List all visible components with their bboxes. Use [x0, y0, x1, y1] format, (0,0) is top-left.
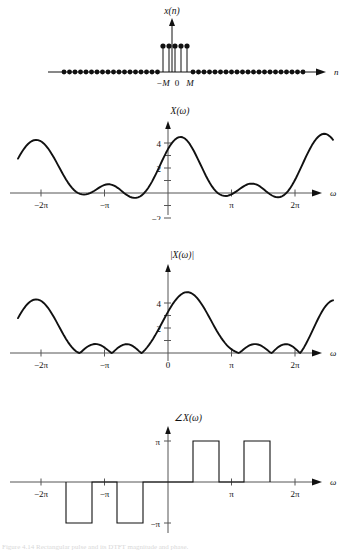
spectrum-magnitude-plot: |X(ω)| ω 4 2 −2π [0, 245, 351, 375]
spectrum-real-title: X(ω) [170, 106, 190, 117]
panel-sequence: x(n) n [0, 0, 351, 95]
spectrum-magnitude-xtick-pi: π [229, 360, 234, 370]
spectrum-real-xtick-pi: π [229, 200, 234, 210]
spectrum-magnitude-xtick-zero: 0 [166, 360, 171, 370]
panel-spectrum-phase: ∠X(ω) ω π −π −2π −π π [0, 405, 351, 545]
sequence-plot: x(n) n [0, 0, 351, 95]
spectrum-real-xtick-minus2pi: −2π [34, 200, 49, 210]
spectrum-magnitude-xtick-minuspi: −π [100, 360, 110, 370]
spectrum-phase-ytick-minuspi: −π [150, 519, 160, 529]
spectrum-phase-xtick-minuspi: −π [100, 489, 110, 499]
spectrum-phase-y-arrowhead [165, 426, 171, 434]
spectrum-magnitude-title: |X(ω)| [170, 250, 194, 261]
spectrum-magnitude-xtick-minus2pi: −2π [34, 360, 49, 370]
sequence-x-axis-label: n [334, 67, 339, 77]
spectrum-phase-plot: ∠X(ω) ω π −π −2π −π π [0, 405, 351, 545]
sequence-zero-samples-right [191, 70, 306, 75]
spectrum-phase-xtick-pi: π [229, 489, 234, 499]
dtft-figure: x(n) n [0, 0, 351, 555]
sequence-x-arrowhead [316, 69, 326, 76]
spectrum-real-y-arrowhead [165, 121, 171, 129]
spectrum-magnitude-x-axis-label: ω [330, 348, 336, 358]
spectrum-real-curve [18, 134, 333, 198]
sequence-xtick-m: M [185, 78, 194, 88]
spectrum-magnitude-y-arrowhead [165, 264, 171, 272]
spectrum-real-x-arrowhead [312, 190, 322, 197]
figure-caption: Figure 4.14 Rectangular pulse and its DT… [2, 543, 351, 551]
panel-spectrum-real: X(ω) ω 4 2 −2 [0, 100, 351, 220]
spectrum-real-ytick-minus2: −2 [151, 214, 161, 221]
spectrum-magnitude-curve [18, 292, 333, 353]
spectrum-phase-xtick-2pi: 2π [290, 489, 300, 499]
spectrum-magnitude-ytick-4: 4 [157, 299, 162, 309]
spectrum-phase-title: ∠X(ω) [174, 413, 202, 424]
spectrum-real-x-axis-label: ω [330, 188, 336, 198]
spectrum-phase-x-axis-label: ω [330, 477, 336, 487]
spectrum-real-xtick-minuspi: −π [100, 200, 110, 210]
spectrum-magnitude-x-arrowhead [312, 350, 322, 357]
spectrum-real-plot: X(ω) ω 4 2 −2 [0, 100, 351, 220]
spectrum-real-xtick-2pi: 2π [290, 200, 300, 210]
spectrum-phase-x-arrowhead [312, 479, 322, 486]
sequence-xtick-zero: 0 [175, 78, 180, 88]
sequence-title: x(n) [163, 6, 179, 17]
sequence-pulse-samples [160, 43, 189, 72]
spectrum-phase-xtick-minus2pi: −2π [34, 489, 49, 499]
sequence-xtick-minus-m: −M [156, 78, 170, 88]
sequence-y-arrowhead [169, 18, 175, 26]
panel-spectrum-magnitude: |X(ω)| ω 4 2 −2π [0, 245, 351, 375]
spectrum-phase-ytick-pi: π [155, 437, 160, 447]
spectrum-magnitude-xtick-2pi: 2π [290, 360, 300, 370]
spectrum-real-ytick-4: 4 [157, 139, 162, 149]
